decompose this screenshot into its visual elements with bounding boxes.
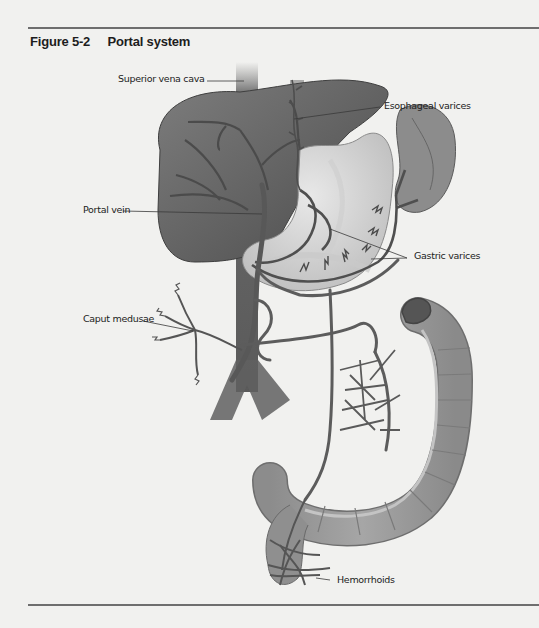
label-caput-medusae: Caput medusae: [83, 313, 154, 324]
label-esophageal-varices: Esophageal varices: [384, 100, 471, 111]
bottom-rule: [28, 604, 539, 606]
label-hemorrhoids: Hemorrhoids: [337, 574, 395, 585]
caput-medusae-vessels: [160, 295, 242, 375]
label-gastric-varices: Gastric varices: [414, 250, 480, 261]
spleen: [395, 105, 455, 213]
mesenteric-network: [340, 350, 400, 430]
colon: [266, 298, 472, 584]
caput-medusae-squiggles: [152, 283, 199, 385]
label-superior-vena-cava: Superior vena cava: [118, 73, 205, 84]
portal-system-illustration: [0, 0, 539, 628]
label-portal-vein: Portal vein: [83, 204, 130, 215]
